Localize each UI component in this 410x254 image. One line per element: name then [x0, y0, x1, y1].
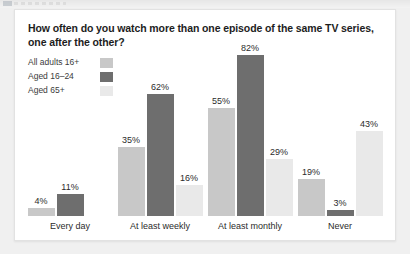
bar[interactable] [208, 108, 235, 216]
bar-groups: 4%11%0%Every day35%62%16%At least weekly… [25, 42, 385, 232]
bar-group-bars: 4%11%0% [27, 42, 114, 216]
header-marker-icon [3, 1, 12, 6]
bar-value-label: 43% [360, 119, 378, 130]
bar-slot: 4% [28, 42, 55, 216]
bar[interactable] [298, 179, 325, 216]
bar-value-label: 29% [270, 147, 288, 158]
bar[interactable] [57, 194, 84, 216]
cropped-header-artifact [0, 0, 410, 8]
category-label: Never [328, 220, 352, 232]
bar[interactable] [237, 55, 264, 216]
bar-group: 4%11%0%Every day [25, 42, 115, 232]
bar[interactable] [327, 210, 354, 216]
bar-value-label: 82% [241, 43, 259, 54]
bar[interactable] [147, 94, 174, 216]
bar[interactable] [266, 159, 293, 216]
bar-slot: 62% [147, 42, 174, 216]
bar-value-label: 19% [302, 167, 320, 178]
bar-slot: 43% [356, 42, 383, 216]
bar-slot: 35% [118, 42, 145, 216]
category-label: At least weekly [130, 220, 190, 232]
chart-plot-area: 4%11%0%Every day35%62%16%At least weekly… [25, 42, 385, 232]
bar-value-label: 11% [61, 182, 78, 193]
header-text-remnant [14, 2, 66, 5]
bar-group-bars: 55%82%29% [207, 42, 294, 216]
bar-group: 35%62%16%At least weekly [115, 42, 205, 232]
bar-group: 55%82%29%At least monthly [205, 42, 295, 232]
bar-slot: 19% [298, 42, 325, 216]
category-label: Every day [50, 220, 90, 232]
bar-slot: 11% [57, 42, 84, 216]
category-label: At least monthly [218, 220, 282, 232]
bar-slot: 55% [208, 42, 235, 216]
bar-group: 19%3%43%Never [295, 42, 385, 232]
bar-slot: 29% [266, 42, 293, 216]
bar-slot: 82% [237, 42, 264, 216]
bar-group-bars: 19%3%43% [297, 42, 384, 216]
bar-value-label: 35% [122, 135, 140, 146]
chart-card: How often do you watch more than one epi… [14, 9, 396, 241]
bar-value-label: 16% [180, 173, 198, 184]
bar-slot: 3% [327, 42, 354, 216]
bar[interactable] [356, 131, 383, 216]
bar[interactable] [176, 185, 203, 216]
bar-value-label: 3% [333, 198, 346, 209]
bar[interactable] [118, 147, 145, 216]
bar-group-bars: 35%62%16% [117, 42, 204, 216]
bar-slot: 16% [176, 42, 203, 216]
bar[interactable] [28, 208, 55, 216]
bar-value-label: 55% [212, 96, 230, 107]
bar-value-label: 62% [151, 82, 169, 93]
bar-slot: 0% [86, 42, 113, 216]
bar-value-label: 4% [34, 196, 47, 207]
